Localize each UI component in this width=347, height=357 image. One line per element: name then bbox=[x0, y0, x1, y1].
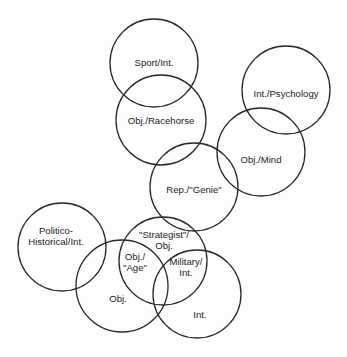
circle-strategist-label: Obj. bbox=[155, 240, 173, 251]
circle-genie-label: Rep./"Genie" bbox=[166, 184, 221, 195]
overlapping-circles-diagram: Sport/Int.Obj./RacehorseInt./PsychologyO… bbox=[0, 0, 347, 357]
circle-mind bbox=[217, 108, 305, 196]
overlap-military-label: Int. bbox=[179, 267, 192, 278]
circle-int-label: Int. bbox=[193, 309, 206, 320]
circle-psychology-label: Int./Psychology bbox=[253, 88, 318, 99]
circle-mind-label: Obj./Mind bbox=[240, 154, 281, 165]
overlap-age-label: "Age" bbox=[123, 262, 147, 273]
circle-politico-label: Politico- bbox=[39, 225, 73, 236]
circle-obj-label: Obj. bbox=[109, 293, 127, 304]
diagram-canvas: Sport/Int.Obj./RacehorseInt./PsychologyO… bbox=[0, 0, 347, 357]
circle-politico-label: Historical/Int. bbox=[28, 236, 83, 247]
circle-sport-label: Sport/Int. bbox=[135, 57, 174, 68]
overlap-age-label: Obj./ bbox=[125, 251, 146, 262]
circle-politico bbox=[18, 203, 106, 291]
overlap-military-label: Military/ bbox=[169, 256, 202, 267]
circle-strategist-label: "Strategist"/ bbox=[139, 229, 189, 240]
circle-racehorse-label: Obj./Racehorse bbox=[128, 115, 195, 126]
